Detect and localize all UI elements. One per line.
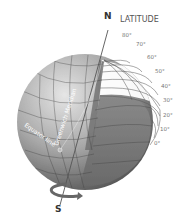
north-label: N <box>104 11 112 21</box>
tick-50: 50° <box>155 68 165 74</box>
tick-0: 0° <box>154 140 160 146</box>
tick-80: 80° <box>122 32 132 38</box>
south-label: S <box>55 204 61 214</box>
tick-20: 20° <box>163 112 173 118</box>
tick-10: 10° <box>160 126 170 132</box>
latitude-title: LATITUDE <box>120 15 159 24</box>
tick-40: 40° <box>161 83 171 89</box>
tick-30: 30° <box>163 97 173 103</box>
tick-70: 70° <box>136 41 146 47</box>
globe-diagram: N LATITUDE S 80° 70° 60° 50° 40° 30° 20°… <box>0 0 184 219</box>
equator-meridian-point <box>58 148 62 152</box>
tick-60: 60° <box>147 54 157 60</box>
